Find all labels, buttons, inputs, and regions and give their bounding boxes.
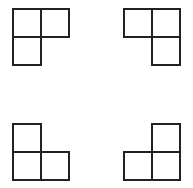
square-cell xyxy=(152,152,180,180)
square-cell xyxy=(13,152,41,180)
square-cell xyxy=(13,9,41,37)
l-tromino-bottom-right xyxy=(124,124,180,180)
square-cell xyxy=(41,9,69,37)
square-cell xyxy=(124,152,152,180)
square-cell xyxy=(124,9,152,37)
l-tromino-top-left xyxy=(13,9,69,65)
square-cell xyxy=(152,9,180,37)
square-cell xyxy=(152,124,180,152)
square-cell xyxy=(41,152,69,180)
square-cell xyxy=(13,124,41,152)
l-tromino-top-right xyxy=(124,9,180,65)
l-tromino-bottom-left xyxy=(13,124,69,180)
square-cell xyxy=(13,37,41,65)
tromino-diagram xyxy=(0,0,193,188)
square-cell xyxy=(152,37,180,65)
